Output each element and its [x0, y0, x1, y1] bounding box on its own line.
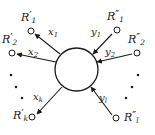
vertex-marker-R2p [9, 50, 15, 56]
central-node [55, 48, 98, 91]
right-ellipsis-dots [125, 74, 139, 99]
vertex-marker-Rkp [29, 114, 35, 120]
left-ellipsis-dot-1 [10, 74, 12, 76]
node-label-R1p: R′1 [21, 10, 36, 24]
vertex-marker-R1p [28, 28, 34, 34]
node-label-R2p: R′2 [2, 32, 17, 46]
right-ellipsis-dot-2 [131, 86, 133, 88]
left-ellipsis-dot-3 [21, 97, 23, 99]
vertex-marker-R1pp [114, 27, 120, 33]
edge-label-y2: y2 [105, 47, 115, 59]
edge-label-x2: x2 [28, 47, 38, 59]
node-label-Rkp: R′k [13, 108, 28, 122]
node-label-R2pp: R″2 [128, 32, 145, 46]
vertex-marker-Rlpp [113, 115, 119, 121]
figure-canvas: R′1R′2R′kR″1R″2R″lx1x2xky1y2yl [0, 0, 155, 135]
right-ellipsis-dot-3 [125, 97, 127, 99]
edge-label-xk: xk [33, 92, 43, 104]
vertex-marker-R2pp [134, 50, 140, 56]
edge-label-y1: y1 [91, 27, 101, 39]
node-label-Rlpp: R″l [124, 110, 139, 124]
node-label-R1pp: R″1 [107, 9, 124, 23]
left-ellipsis-dots [10, 74, 23, 99]
left-ellipsis-dot-2 [15, 86, 17, 88]
edge-label-yl: yl [99, 93, 107, 105]
edge-label-x1: x1 [48, 27, 58, 39]
right-ellipsis-dot-1 [137, 74, 139, 76]
